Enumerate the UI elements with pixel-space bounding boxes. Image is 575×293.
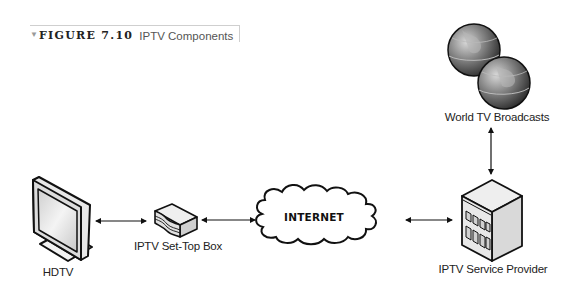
diagram-canvas <box>0 0 575 293</box>
set-top-box-icon <box>155 204 197 237</box>
globes-icon <box>448 24 530 109</box>
hdtv-monitor-icon <box>33 177 92 261</box>
world-tv-label: World TV Broadcasts <box>445 111 549 123</box>
hdtv-label: HDTV <box>43 266 74 278</box>
service-provider-label: IPTV Service Provider <box>439 263 548 275</box>
internet-label: INTERNET <box>284 211 344 223</box>
building-icon <box>462 180 522 261</box>
set-top-box-label: IPTV Set-Top Box <box>134 240 222 252</box>
